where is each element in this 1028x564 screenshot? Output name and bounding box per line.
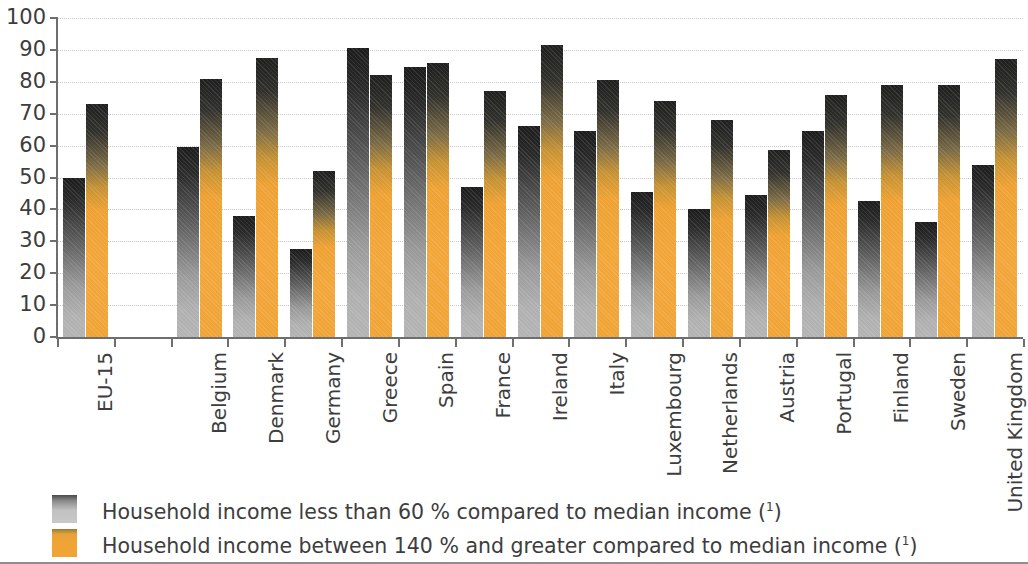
y-tick-mark-20 [50,272,57,274]
y-tick-label-20: 20 [0,262,46,283]
x-tick-mark [1023,339,1025,347]
chart-legend: Household income less than 60 % compared… [52,492,1012,560]
x-tick-mark [455,339,457,347]
x-tick-mark [853,339,855,347]
bar-chart: 0102030405060708090100 EU-15BelgiumDenma… [0,0,1028,564]
y-tick-mark-50 [50,177,57,179]
y-tick-label-80: 80 [0,71,46,92]
y-tick-mark-60 [50,145,57,147]
x-axis-label-spain: Spain [436,352,456,408]
y-tick-mark-70 [50,113,57,115]
y-tick-mark-90 [50,49,57,51]
x-axis-label-eu-15: EU-15 [95,352,115,412]
x-tick-mark [341,339,343,347]
y-tick-mark-0 [50,336,57,338]
x-tick-mark [739,339,741,347]
x-axis-label-germany: Germany [323,352,343,444]
legend-swatch-orange-icon [52,529,77,557]
x-tick-mark [796,339,798,347]
legend-label-high-income: Household income between 140 % and great… [102,529,917,558]
legend-item-low-income: Household income less than 60 % compared… [52,492,1012,526]
y-tick-mark-30 [50,240,57,242]
legend-label-low-income-text: Household income less than 60 % compared… [102,499,766,523]
y-tick-label-50: 50 [0,167,46,188]
legend-swatch-gray-icon [52,495,77,523]
x-tick-mark [114,339,116,347]
x-axis-label-luxembourg: Luxembourg [664,352,684,477]
x-tick-mark [682,339,684,347]
x-axis-label-united-kingdom: United Kingdom [1005,352,1025,513]
y-axis-ticks: 0102030405060708090100 [0,0,1028,564]
legend-label-high-income-close: ) [909,533,917,557]
y-tick-label-70: 70 [0,103,46,124]
y-tick-label-90: 90 [0,39,46,60]
y-tick-mark-40 [50,208,57,210]
x-tick-mark [284,339,286,347]
x-axis-label-denmark: Denmark [266,352,286,444]
x-axis-label-belgium: Belgium [209,352,229,434]
y-tick-label-40: 40 [0,198,46,219]
x-axis-label-netherlands: Netherlands [720,352,740,474]
y-tick-label-60: 60 [0,135,46,156]
y-tick-label-0: 0 [0,326,46,347]
x-axis-label-ireland: Ireland [550,352,570,421]
legend-label-low-income: Household income less than 60 % compared… [102,495,782,524]
x-tick-mark [398,339,400,347]
x-tick-mark [57,339,59,347]
x-axis-label-austria: Austria [777,352,797,423]
x-tick-mark [512,339,514,347]
y-tick-label-100: 100 [0,7,46,28]
x-axis-label-finland: Finland [891,352,911,423]
x-axis-label-sweden: Sweden [948,352,968,431]
x-axis-label-italy: Italy [607,352,627,395]
x-tick-mark [568,339,570,347]
x-axis-label-portugal: Portugal [834,352,854,435]
y-tick-label-30: 30 [0,230,46,251]
x-axis-label-france: France [493,352,513,419]
x-tick-mark [227,339,229,347]
y-tick-mark-100 [50,17,57,19]
x-tick-mark [625,339,627,347]
x-tick-mark [909,339,911,347]
x-axis-label-greece: Greece [380,352,400,423]
legend-item-high-income: Household income between 140 % and great… [52,526,1012,560]
legend-label-low-income-footnote: 1 [766,500,774,514]
x-tick-mark [171,339,173,347]
y-tick-label-10: 10 [0,294,46,315]
x-tick-mark [966,339,968,347]
legend-label-low-income-close: ) [774,499,782,523]
y-tick-mark-10 [50,304,57,306]
legend-label-high-income-text: Household income between 140 % and great… [102,533,902,557]
y-tick-mark-80 [50,81,57,83]
